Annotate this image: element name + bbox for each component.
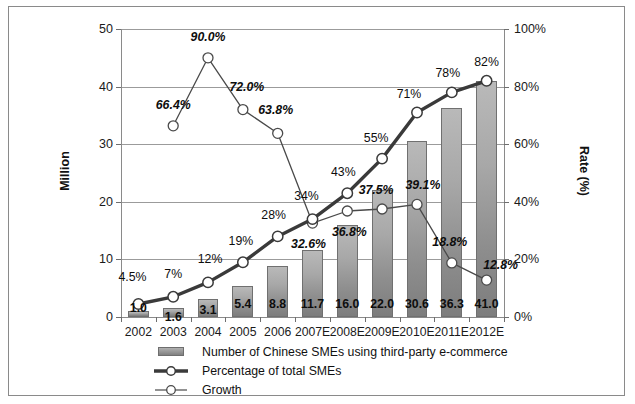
percentage-data-label: 82% <box>474 55 499 69</box>
x-axis-tick-label: 2004 <box>194 325 221 339</box>
y-axis-left-tickmark <box>116 202 121 203</box>
plot-area: 1.01.63.15.48.811.716.022.030.636.341.04… <box>121 29 504 317</box>
growth-data-label: 63.8% <box>258 103 293 117</box>
x-axis-tick-label: 2010E <box>399 325 434 339</box>
y-axis-left-tick-label: 50 <box>81 22 113 36</box>
y-axis-left-tickmark <box>116 259 121 260</box>
percentage-data-label: 34% <box>294 189 319 203</box>
y-axis-right-tickmark <box>504 87 509 88</box>
y-axis-right-tickmark <box>504 202 509 203</box>
y-axis-right-tick-label: 60% <box>514 137 539 151</box>
x-axis-tickmark <box>225 317 226 322</box>
x-axis-tick-label: 2011E <box>435 325 469 339</box>
growth-data-label: 72.0% <box>229 80 264 94</box>
x-axis-tickmark <box>121 317 122 322</box>
y-axis-left-tickmark <box>116 87 121 88</box>
bar-value-label: 5.4 <box>234 297 251 311</box>
bar-swatch-icon <box>148 347 194 356</box>
bar-value-label: 8.8 <box>269 297 286 311</box>
y-axis-right-tick-label: 0% <box>514 310 532 324</box>
x-axis-tick-label: 2006 <box>264 325 291 339</box>
y-axis-left-title: Million <box>58 131 72 211</box>
x-axis-tickmark <box>156 317 157 322</box>
y-axis-right-tickmark <box>504 259 509 260</box>
x-axis-tickmark <box>330 317 331 322</box>
x-axis-tick-label: 2009E <box>365 325 400 339</box>
y-axis-right-tick-label: 80% <box>514 80 539 94</box>
y-axis-right-tick-label: 40% <box>514 195 539 209</box>
growth-data-label: 36.8% <box>332 225 367 239</box>
x-axis-tickmark <box>365 317 366 322</box>
x-axis-tick-label: 2003 <box>160 325 187 339</box>
y-axis-right-tick-label: 100% <box>514 22 546 36</box>
chart-frame: 1.01.63.15.48.811.716.022.030.636.341.04… <box>8 6 625 396</box>
x-axis-tick-label: 2008E <box>330 325 365 339</box>
y-axis-right-tickmark <box>504 144 509 145</box>
bar-value-label: 30.6 <box>405 297 429 311</box>
gridline <box>121 29 504 30</box>
y-axis-left-tick-label: 40 <box>81 80 113 94</box>
bar <box>407 141 428 317</box>
y-axis-right-title: Rate (%) <box>577 131 591 211</box>
thin-line-marker-icon <box>148 383 194 397</box>
x-axis-tickmark <box>504 317 505 322</box>
x-axis-tickmark <box>400 317 401 322</box>
percentage-data-label: 78% <box>435 66 460 80</box>
percentage-data-label: 4.5% <box>118 270 146 284</box>
chart-legend: Number of Chinese SMEs using third-party… <box>148 342 507 399</box>
growth-data-label: 32.6% <box>291 237 326 251</box>
percentage-data-label: 43% <box>331 165 356 179</box>
percentage-data-label: 7% <box>164 267 182 281</box>
legend-label-percentage: Percentage of total SMEs <box>202 364 341 378</box>
bar-value-label: 36.3 <box>440 297 464 311</box>
bar-value-label: 22.0 <box>370 297 394 311</box>
bar-value-label: 41.0 <box>475 297 499 311</box>
y-axis-left-tickmark <box>116 29 121 30</box>
x-axis-tickmark <box>469 317 470 322</box>
percentage-data-label: 28% <box>261 208 286 222</box>
legend-item-percentage: Percentage of total SMEs <box>148 361 507 380</box>
growth-data-label: 39.1% <box>406 178 441 192</box>
growth-data-label: 37.5% <box>359 183 394 197</box>
bar-value-label: 11.7 <box>301 297 324 311</box>
thick-line-marker-icon <box>148 364 194 378</box>
legend-item-bars: Number of Chinese SMEs using third-party… <box>148 342 507 361</box>
growth-data-label: 12.8% <box>483 258 518 272</box>
bar-value-label: 1.6 <box>165 310 182 324</box>
legend-label-growth: Growth <box>202 383 242 397</box>
x-axis-tickmark <box>295 317 296 322</box>
percentage-data-label: 19% <box>229 234 254 248</box>
bar-value-label: 1.0 <box>130 301 147 315</box>
bar-value-label: 3.1 <box>199 303 216 317</box>
bar-value-label: 16.0 <box>335 297 359 311</box>
y-axis-left-tick-label: 0 <box>81 310 113 324</box>
x-axis-tick-label: 2007E <box>295 325 330 339</box>
x-axis-tick-label: 2005 <box>229 325 256 339</box>
percentage-data-label: 55% <box>364 131 389 145</box>
y-axis-left-tick-label: 20 <box>81 195 113 209</box>
x-axis-tickmark <box>434 317 435 322</box>
y-axis-left-tick-label: 30 <box>81 137 113 151</box>
y-axis-right-tick-label: 20% <box>514 252 539 266</box>
x-axis-tick-label: 2012E <box>469 325 504 339</box>
bar <box>476 81 497 317</box>
y-axis-left-tick-label: 10 <box>81 252 113 266</box>
x-axis-tickmark <box>260 317 261 322</box>
growth-data-label: 66.4% <box>156 98 191 112</box>
bar <box>441 108 462 317</box>
x-axis-tick-label: 2002 <box>125 325 152 339</box>
legend-item-growth: Growth <box>148 380 507 399</box>
percentage-data-label: 71% <box>397 87 422 101</box>
legend-label-bars: Number of Chinese SMEs using third-party… <box>202 345 507 359</box>
y-axis-right-line <box>504 29 505 317</box>
gridline <box>121 87 504 88</box>
y-axis-left-tickmark <box>116 144 121 145</box>
growth-data-label: 90.0% <box>191 30 226 44</box>
growth-data-label: 18.8% <box>432 235 467 249</box>
percentage-data-label: 12% <box>198 252 223 266</box>
x-axis-tickmark <box>191 317 192 322</box>
y-axis-right-tickmark <box>504 29 509 30</box>
